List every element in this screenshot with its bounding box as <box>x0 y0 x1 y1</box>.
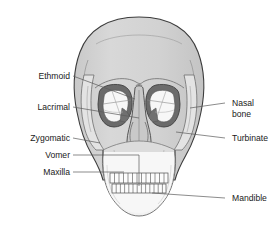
label-vomer: Vomer <box>45 150 70 160</box>
label-lacrimal: Lacrimal <box>38 102 71 112</box>
label-mandible: Mandible <box>232 193 267 203</box>
skull-illustration: anatomy <box>0 0 279 233</box>
label-nasal-bone-line1: Nasal <box>232 98 254 108</box>
skull-diagram: anatomy <box>0 0 279 233</box>
label-ethmoid: Ethmoid <box>38 71 70 81</box>
label-turbinate: Turbinate <box>232 133 268 143</box>
label-group-left: Ethmoid Lacrimal Zygomatic Vomer Maxilla <box>30 71 70 177</box>
label-nasal-bone-line2: bone <box>232 109 251 119</box>
orbit-left <box>98 84 132 127</box>
label-maxilla: Maxilla <box>43 167 70 177</box>
label-zygomatic: Zygomatic <box>30 133 70 143</box>
label-group-right: Nasal bone Turbinate Mandible <box>232 98 268 203</box>
orbit-right <box>146 84 180 127</box>
